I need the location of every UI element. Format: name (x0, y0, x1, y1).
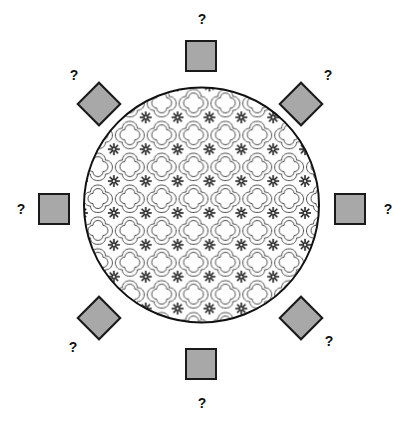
table-pattern-fill (82, 85, 321, 325)
seat-north[interactable] (185, 40, 217, 72)
seat-south[interactable] (185, 348, 217, 380)
seat-east-label: ? (381, 202, 395, 216)
seat-west-label: ? (14, 202, 28, 216)
seat-north-label: ? (195, 12, 209, 26)
diagram-canvas: ???????? (0, 0, 407, 428)
seat-east[interactable] (334, 193, 366, 225)
seat-west[interactable] (38, 193, 70, 225)
seat-northeast-label: ? (321, 68, 335, 82)
seat-southeast-label: ? (322, 334, 336, 348)
seat-south-label: ? (195, 396, 209, 410)
seat-southwest-label: ? (66, 340, 80, 354)
round-table (82, 85, 321, 325)
seat-northwest-label: ? (67, 68, 81, 82)
